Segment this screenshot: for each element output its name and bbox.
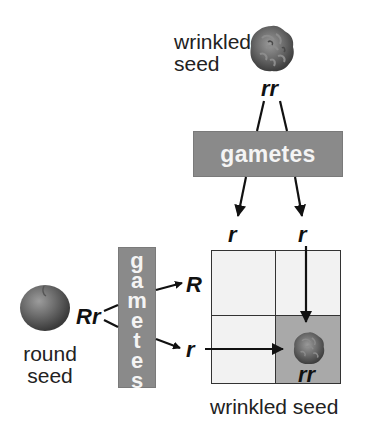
line-Rr-lower [104, 320, 118, 327]
line-rr-left [257, 101, 264, 131]
arrows-layer [0, 0, 369, 430]
line-rr-right [280, 101, 287, 131]
arrow-to-r [156, 339, 180, 348]
arrow-to-R [156, 283, 182, 290]
line-Rr-upper [104, 305, 118, 311]
arrow-gamete-top-right [295, 177, 302, 216]
arrow-gamete-top-left [238, 177, 246, 216]
